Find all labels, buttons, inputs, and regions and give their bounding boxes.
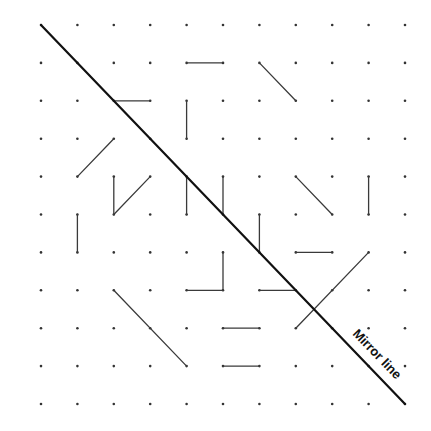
mirror-line <box>41 25 405 404</box>
grid-dot <box>113 403 116 406</box>
grid-dot <box>258 175 261 178</box>
grid-dot <box>222 403 225 406</box>
grid-dot <box>149 62 152 65</box>
grid-dot <box>185 403 188 406</box>
line-segment <box>114 177 150 215</box>
grid-dot <box>185 327 188 330</box>
grid-dot <box>40 100 43 103</box>
grid-dot <box>404 175 407 178</box>
grid-dot <box>331 62 334 65</box>
grid-dot <box>295 24 298 27</box>
dot-grid-diagram: Mirror line <box>0 0 431 431</box>
grid-dot <box>185 251 188 254</box>
grid-dot <box>258 403 261 406</box>
grid-dot <box>295 213 298 216</box>
grid-dot <box>404 251 407 254</box>
grid-dot <box>113 24 116 27</box>
grid-dot <box>404 100 407 103</box>
grid-dot <box>367 100 370 103</box>
grid-dot <box>331 175 334 178</box>
grid-dot <box>40 327 43 330</box>
grid-dot <box>40 175 43 178</box>
grid-dot <box>113 62 116 65</box>
grid-dot <box>222 100 225 103</box>
grid-dot <box>367 62 370 65</box>
grid-dot <box>295 365 298 368</box>
grid-dot <box>76 137 79 140</box>
grid-dot <box>404 24 407 27</box>
grid-dot <box>367 289 370 292</box>
grid-dot <box>258 137 261 140</box>
grid-dot <box>40 365 43 368</box>
grid-dot <box>331 403 334 406</box>
grid-dot <box>149 213 152 216</box>
grid-dot <box>404 365 407 368</box>
grid-dot <box>76 24 79 27</box>
grid-dot <box>185 24 188 27</box>
grid-dot <box>404 289 407 292</box>
grid-dot <box>331 100 334 103</box>
grid-dot <box>113 327 116 330</box>
grid-dot <box>76 365 79 368</box>
grid-dot <box>40 137 43 140</box>
grid-dot <box>367 24 370 27</box>
grid-dot <box>149 289 152 292</box>
grid-dot <box>40 213 43 216</box>
line-segment <box>77 139 113 177</box>
grid-dot <box>76 100 79 103</box>
grid-dot <box>404 62 407 65</box>
grid-dot <box>331 365 334 368</box>
grid-dot <box>367 327 370 330</box>
grid-dot <box>331 24 334 27</box>
grid-dot <box>113 251 116 254</box>
grid-dot <box>404 327 407 330</box>
grid-dot <box>367 137 370 140</box>
grid-dot <box>295 62 298 65</box>
grid-dot <box>367 403 370 406</box>
grid-dot <box>295 403 298 406</box>
grid-dot <box>40 289 43 292</box>
grid-dot <box>258 100 261 103</box>
line-segment <box>296 252 369 328</box>
grid-dot <box>40 403 43 406</box>
grid-dot <box>40 62 43 65</box>
grid-dot <box>149 365 152 368</box>
grid-dot <box>149 403 152 406</box>
grid-dot <box>404 213 407 216</box>
grid-dot <box>149 24 152 27</box>
grid-dot <box>222 137 225 140</box>
grid-dot <box>149 251 152 254</box>
grid-dot <box>331 137 334 140</box>
grid-dot <box>404 137 407 140</box>
grid-dot <box>295 137 298 140</box>
line-segment <box>296 177 332 215</box>
grid-dot <box>76 327 79 330</box>
grid-dot <box>76 403 79 406</box>
line-segment <box>114 290 187 366</box>
grid-dot <box>40 251 43 254</box>
grid-dot <box>76 289 79 292</box>
grid-dot <box>113 365 116 368</box>
line-segment <box>259 63 295 101</box>
grid-dot <box>222 24 225 27</box>
grid-dot <box>258 24 261 27</box>
